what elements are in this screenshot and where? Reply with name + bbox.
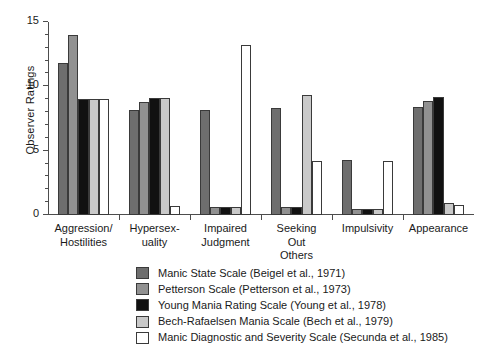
x-axis-separator-tick xyxy=(403,215,404,220)
bar xyxy=(149,98,159,215)
bar xyxy=(231,207,241,215)
y-axis-tick-minor xyxy=(45,201,48,202)
bar xyxy=(89,99,99,215)
y-axis-line xyxy=(48,22,49,215)
y-axis-title: Observer Ratings xyxy=(24,20,36,200)
chart-legend: Manic State Scale (Beigel et al., 1971)P… xyxy=(136,265,476,346)
legend-swatch xyxy=(136,316,149,328)
bar xyxy=(210,207,220,215)
bar xyxy=(281,207,291,215)
bar xyxy=(58,63,68,215)
bar-chart-figure: Observer Ratings 051015 Aggression/ Host… xyxy=(0,0,481,355)
y-axis-tick-minor xyxy=(45,163,48,164)
bar xyxy=(423,101,433,216)
legend-item: Bech-Rafaelsen Mania Scale (Bech et al.,… xyxy=(136,314,476,330)
bar xyxy=(271,108,281,215)
legend-item: Petterson Scale (Petterson et al., 1973) xyxy=(136,281,476,297)
bar xyxy=(362,209,372,215)
x-axis-separator-tick xyxy=(119,215,120,220)
legend-label: Bech-Rafaelsen Mania Scale (Bech et al.,… xyxy=(158,315,393,328)
y-axis-tick-major: 5 xyxy=(43,150,48,151)
bar xyxy=(352,209,362,215)
x-axis-separator-tick xyxy=(261,215,262,220)
bar xyxy=(129,110,139,216)
legend-label: Manic Diagnostic and Severity Scale (Sec… xyxy=(158,331,448,344)
legend-label: Manic State Scale (Beigel et al., 1971) xyxy=(158,267,345,280)
y-axis-tick-minor xyxy=(45,188,48,189)
y-axis-tick-minor xyxy=(45,137,48,138)
legend-item: Manic Diagnostic and Severity Scale (Sec… xyxy=(136,330,476,346)
y-axis-tick-major: 15 xyxy=(43,21,48,22)
y-axis-tick-label: 10 xyxy=(27,78,39,91)
bar xyxy=(139,102,149,215)
bar xyxy=(373,209,383,215)
y-axis-tick-major: 0 xyxy=(43,214,48,215)
y-axis-tick-minor xyxy=(45,98,48,99)
y-axis-tick-minor xyxy=(45,72,48,73)
y-axis-tick-label: 0 xyxy=(33,207,39,220)
bar xyxy=(312,161,322,215)
legend-item: Young Mania Rating Scale (Young et al., … xyxy=(136,297,476,313)
bar xyxy=(78,99,88,215)
legend-swatch xyxy=(136,299,149,311)
plot-area: 051015 xyxy=(48,22,474,215)
y-axis-tick-minor xyxy=(45,60,48,61)
bar xyxy=(291,207,301,215)
bar xyxy=(241,45,251,215)
bar xyxy=(160,98,170,215)
legend-swatch xyxy=(136,267,149,279)
bar xyxy=(170,206,180,215)
legend-label: Young Mania Rating Scale (Young et al., … xyxy=(158,299,386,312)
bar xyxy=(302,95,312,215)
bar xyxy=(454,205,464,215)
bar xyxy=(413,107,423,215)
y-axis-tick-label: 15 xyxy=(27,14,39,27)
x-axis-separator-tick xyxy=(190,215,191,220)
y-axis-tick-minor xyxy=(45,124,48,125)
y-axis-tick-minor xyxy=(45,34,48,35)
legend-item: Manic State Scale (Beigel et al., 1971) xyxy=(136,265,476,281)
legend-swatch xyxy=(136,332,149,344)
y-axis-tick-minor xyxy=(45,47,48,48)
y-axis-tick-major: 10 xyxy=(43,85,48,86)
bar xyxy=(433,97,443,215)
bar xyxy=(342,160,352,215)
bar xyxy=(383,161,393,215)
y-axis-tick-minor xyxy=(45,175,48,176)
bar xyxy=(200,110,210,216)
x-axis-category-label: Appearance xyxy=(397,222,480,236)
bar xyxy=(99,99,109,215)
x-axis-separator-tick xyxy=(332,215,333,220)
legend-swatch xyxy=(136,283,149,295)
y-axis-tick-label: 5 xyxy=(33,143,39,156)
legend-label: Petterson Scale (Petterson et al., 1973) xyxy=(158,283,351,296)
bar xyxy=(68,35,78,215)
bar xyxy=(220,207,230,215)
y-axis-tick-minor xyxy=(45,111,48,112)
bar xyxy=(444,203,454,215)
